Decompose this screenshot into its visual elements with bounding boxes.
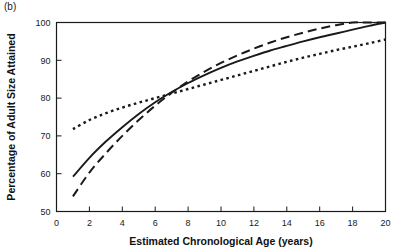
x-tick-label: 2 <box>87 218 92 228</box>
x-tick-label: 0 <box>54 218 59 228</box>
axis-frame <box>57 23 386 212</box>
y-axis-title: Percentage of Adult Size Attained <box>5 33 17 200</box>
y-axis-ticks <box>57 23 62 212</box>
x-tick-label: 12 <box>249 218 259 228</box>
y-tick-label: 100 <box>35 18 50 28</box>
x-tick-label: 20 <box>380 218 390 228</box>
chart-plot-area: 5060708090100 02468101214161820 Estimate… <box>0 0 403 248</box>
y-tick-label: 60 <box>40 169 50 179</box>
x-tick-label: 18 <box>348 218 358 228</box>
x-tick-label: 4 <box>120 218 125 228</box>
series-dotted-curve <box>73 40 386 130</box>
x-tick-label: 16 <box>315 218 325 228</box>
y-tick-label: 90 <box>40 56 50 66</box>
x-axis-tick-labels: 02468101214161820 <box>54 218 391 228</box>
y-tick-label: 80 <box>40 93 50 103</box>
series-solid-curve <box>73 23 386 177</box>
y-tick-label: 70 <box>40 131 50 141</box>
x-tick-label: 6 <box>153 218 158 228</box>
figure-panel: (b) 5060708090100 02468101214161820 Esti… <box>0 0 403 248</box>
x-axis-ticks <box>57 207 386 212</box>
x-tick-label: 8 <box>186 218 191 228</box>
y-axis-tick-labels: 5060708090100 <box>35 18 50 217</box>
x-tick-label: 14 <box>282 218 292 228</box>
y-tick-label: 50 <box>40 207 50 217</box>
x-axis-title: Estimated Chronological Age (years) <box>129 235 312 247</box>
data-series-group <box>73 22 386 196</box>
x-tick-label: 10 <box>216 218 226 228</box>
